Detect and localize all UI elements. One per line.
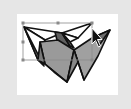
handle-bottom-left[interactable]: [22, 59, 25, 62]
artwork-layer: [0, 0, 131, 109]
handle-middle-left[interactable]: [22, 41, 25, 44]
handle-top-middle[interactable]: [57, 22, 60, 25]
handle-top-left[interactable]: [22, 22, 25, 25]
origami-shape[interactable]: [24, 23, 110, 82]
handle-top-right[interactable]: [91, 22, 94, 25]
handle-bottom-right[interactable]: [91, 59, 94, 62]
